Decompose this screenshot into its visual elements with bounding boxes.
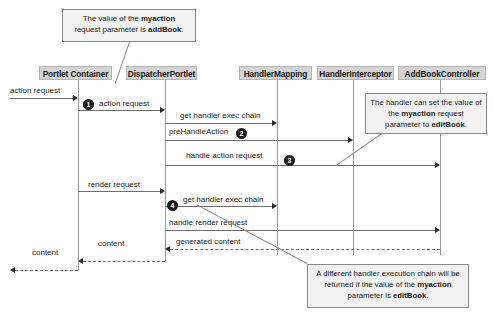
participant-portlet-container[interactable]: Portlet Container <box>39 66 112 80</box>
note-different-chain: A different handler execution chain will… <box>307 264 469 308</box>
message-label-content-dispatcher: content <box>98 239 124 249</box>
message-arrowhead-generated-content <box>165 246 170 252</box>
message-arrowhead-handle-action-request <box>435 162 440 168</box>
message-arrowhead-content-external <box>10 267 15 273</box>
step-marker-2: 2 <box>236 128 247 139</box>
message-line-generated-content <box>170 249 440 250</box>
message-arrowhead-render-request <box>160 188 165 194</box>
message-label-get-handler-exec-chain-render: get handler exec chain <box>183 195 264 205</box>
note-addbook-text: The value of the myactionrequest paramet… <box>74 14 183 34</box>
lifeline-handler-interceptor <box>353 80 354 255</box>
step-marker-1: 1 <box>83 99 94 110</box>
message-arrowhead-get-handler-exec-chain-action <box>272 120 277 126</box>
message-line-content-external <box>15 270 78 271</box>
note-handler-sets-text: The handler can set the value of the mya… <box>370 98 481 129</box>
message-line-get-handler-exec-chain-action <box>165 123 273 124</box>
participant-addbook-controller[interactable]: AddBookController <box>398 66 486 80</box>
message-arrowhead-action-request <box>160 107 165 113</box>
message-line-action-request <box>78 110 161 111</box>
participant-handler-interceptor[interactable]: HandlerInterceptor <box>317 66 394 80</box>
step-marker-3: 3 <box>284 155 295 166</box>
note-different-chain-text: A different handler execution chain will… <box>316 269 459 300</box>
message-line-get-handler-exec-chain-render <box>165 206 273 207</box>
message-line-content-dispatcher <box>83 261 165 262</box>
message-arrowhead-handle-render-request <box>435 227 440 233</box>
message-arrowhead-content-dispatcher <box>78 258 83 264</box>
message-label-action-request-external: action request <box>10 86 60 96</box>
message-label-prehandleaction: preHandleAction <box>169 127 228 137</box>
message-label-content-external: content <box>32 248 58 258</box>
step-marker-4: 4 <box>167 200 178 211</box>
lifeline-handler-mapping <box>277 80 278 255</box>
message-line-action-request-external <box>10 98 74 99</box>
lifeline-dispatcher-portlet <box>165 80 166 261</box>
message-line-prehandleaction <box>165 140 349 141</box>
message-label-render-request: render request <box>88 180 140 190</box>
note-addbook: The value of the myactionrequest paramet… <box>62 9 196 42</box>
lifeline-portlet-container <box>78 80 79 270</box>
note-different-chain-leader <box>197 204 308 264</box>
message-arrowhead-prehandleaction <box>348 137 353 143</box>
note-handler-sets: The handler can set the value of the mya… <box>365 93 487 134</box>
message-line-handle-render-request <box>165 230 436 231</box>
participant-dispatcher-portlet[interactable]: DispatcherPortlet <box>126 66 197 80</box>
message-arrowhead-get-handler-exec-chain-render <box>272 203 277 209</box>
message-label-get-handler-exec-chain-action: get handler exec chain <box>180 111 261 121</box>
note-handler-sets-leader <box>336 133 382 165</box>
message-label-generated-content: generated content <box>176 237 241 247</box>
message-label-handle-action-request: handle action request <box>186 151 263 161</box>
participant-handler-mapping[interactable]: HandlerMapping <box>239 66 312 80</box>
message-line-handle-action-request <box>165 165 436 166</box>
sequence-diagram: The value of the myactionrequest paramet… <box>0 0 493 325</box>
message-line-render-request <box>78 191 161 192</box>
message-arrowhead-action-request-external <box>73 95 78 101</box>
message-label-action-request: action request <box>99 99 149 109</box>
